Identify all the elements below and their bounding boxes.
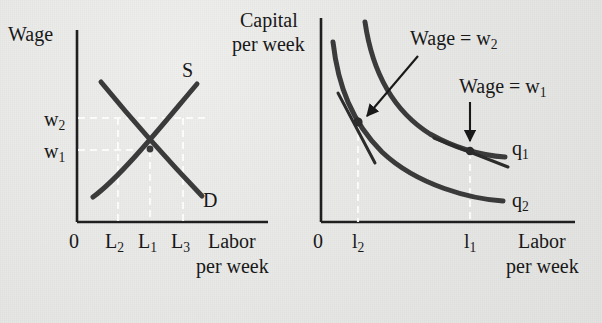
- right-curve-label-q1: q1: [512, 138, 529, 161]
- left-panel-axes: [77, 30, 268, 222]
- left-x-tick-L3-sub: 3: [183, 240, 190, 255]
- tangent-at-l2: [338, 93, 375, 163]
- left-y-tick-w1-sub: 1: [58, 150, 65, 165]
- right-curve-label-q2-sub: 2: [522, 199, 529, 214]
- right-curve-label-q1-sub: 1: [522, 147, 529, 162]
- left-y-tick-w2-sub: 2: [58, 118, 65, 133]
- left-x-tick-L2-base: L: [105, 230, 117, 252]
- annotation-wage-w1-sub: 1: [540, 85, 547, 100]
- left-x-tick-L1-base: L: [138, 230, 150, 252]
- left-x-tick-L1: L1: [138, 231, 157, 254]
- right-x-tick-l2: l2: [352, 231, 364, 254]
- right-curve-label-q2-base: q: [512, 189, 522, 211]
- annotation-wage-w1-text: Wage = w: [459, 75, 540, 97]
- tangency-point-l2: [353, 117, 362, 126]
- annotation-wage-w2: Wage = w2: [410, 28, 498, 51]
- left-x-tick-L1-sub: 1: [150, 240, 157, 255]
- left-x-tick-L3-base: L: [171, 230, 183, 252]
- right-origin-label: 0: [313, 231, 323, 251]
- right-y-axis-label-line1: Capital: [240, 10, 298, 30]
- left-y-tick-w2: w2: [44, 109, 65, 132]
- left-y-tick-w2-base: w: [44, 108, 58, 130]
- tangency-point-l1: [466, 147, 474, 155]
- left-origin-label: 0: [69, 231, 79, 251]
- right-x-axis-label-line2: per week: [506, 256, 579, 276]
- right-x-tick-l1-sub: 1: [470, 240, 477, 255]
- left-x-axis-label-line1: Labor: [208, 231, 256, 251]
- left-x-tick-L2-sub: 2: [117, 240, 124, 255]
- left-demand-curve-label: D: [203, 190, 217, 210]
- figure-canvas: Wage w2 w1 S D 0 L2 L1 L3 Labor per week…: [0, 0, 602, 323]
- supply-curve: [93, 84, 197, 197]
- right-panel-dashed-guides: [358, 122, 470, 222]
- left-x-tick-L3: L3: [171, 231, 190, 254]
- annotation-wage-w2-sub: 2: [491, 37, 498, 52]
- right-x-axis-label-line1: Labor: [518, 231, 566, 251]
- left-panel-dashed-guides: [78, 118, 205, 222]
- left-y-tick-w1-base: w: [44, 140, 58, 162]
- right-x-tick-l1: l1: [464, 231, 476, 254]
- left-x-tick-L2: L2: [105, 231, 124, 254]
- left-panel-equilibrium: [147, 146, 154, 153]
- right-curve-label-q2: q2: [512, 190, 529, 213]
- left-supply-curve-label: S: [182, 60, 193, 80]
- left-y-axis-label: Wage: [8, 24, 53, 44]
- right-curve-label-q1-base: q: [512, 137, 522, 159]
- left-x-axis-label-line2: per week: [196, 256, 269, 276]
- left-y-tick-w1: w1: [44, 141, 65, 164]
- annotation-wage-w2-text: Wage = w: [410, 27, 491, 49]
- right-x-tick-l2-sub: 2: [358, 240, 365, 255]
- left-panel-curves: [93, 82, 202, 197]
- annotation-wage-w1: Wage = w1: [459, 76, 547, 99]
- right-y-axis-label-line2: per week: [232, 34, 305, 54]
